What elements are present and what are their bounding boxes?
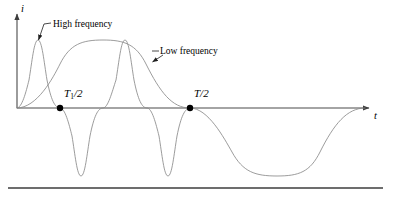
marker-label-t-half: T/2	[194, 88, 209, 99]
marker-dot-t-half	[187, 105, 193, 111]
figure-container: High frequency Low frequency T1/2 T/2 i …	[0, 0, 393, 198]
x-axis-label: t	[374, 111, 377, 122]
high-frequency-leader-arrow	[39, 24, 45, 40]
marker-dot-t1-half	[57, 105, 63, 111]
high-frequency-leader-line	[44, 23, 51, 24]
marker-label-t1-half: T1/2	[64, 88, 82, 99]
high-frequency-label: High frequency	[53, 20, 112, 30]
y-axis-label: i	[21, 4, 24, 15]
low-frequency-label: Low frequency	[160, 47, 218, 57]
waveform-figure	[0, 0, 393, 198]
